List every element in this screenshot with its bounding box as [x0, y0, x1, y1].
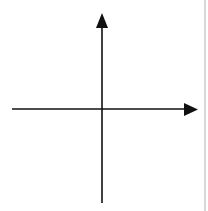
y-axis-arrow-icon: [96, 13, 108, 28]
coordinate-plane: [0, 0, 208, 211]
page-border: [204, 0, 206, 211]
axes: [12, 13, 198, 203]
x-axis-arrow-icon: [184, 103, 198, 116]
